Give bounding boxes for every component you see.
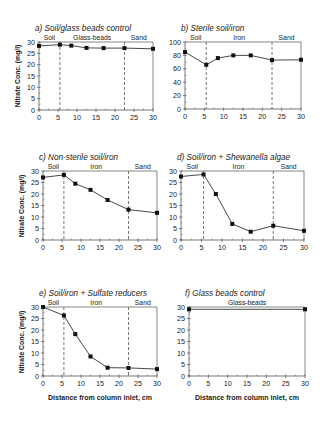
y-tick-label: 10 [31,349,39,358]
y-tick-label: 30 [27,38,35,47]
x-tick-label: 15 [239,243,247,252]
data-marker [214,192,218,196]
x-tick-label: 15 [243,379,251,388]
data-marker [102,46,106,50]
x-tick-label: 30 [300,243,308,252]
y-tick-label: 30 [177,303,185,312]
panel-title: c) Non-sterile soil/iron [39,153,119,162]
x-tick-label: 20 [115,379,123,388]
panel-b: b) Sterile soil/ironSoilIronSand02040608… [169,24,305,121]
x-tick-label: 10 [77,379,85,388]
data-marker [230,222,234,226]
x-tick-label: 5 [60,379,64,388]
y-tick-label: 25 [31,178,39,187]
y-tick-label: 20 [173,91,181,100]
x-tick-label: 25 [134,379,142,388]
data-marker [106,366,110,370]
x-tick-label: 15 [92,113,100,122]
data-line [43,307,157,369]
x-tick-label: 30 [153,243,161,252]
y-tick-label: 15 [27,72,35,81]
y-tick-label: 30 [31,167,39,176]
region-label: Sand [135,163,151,170]
x-tick-label: 15 [96,379,104,388]
x-tick-label: 5 [60,243,64,252]
data-marker [249,230,253,234]
y-tick-label: 25 [31,314,39,323]
region-label: Sand [135,299,151,306]
x-tick-label: 10 [224,379,232,388]
y-tick-label: 20 [31,326,39,335]
data-marker [270,58,274,62]
data-marker [85,46,89,50]
y-tick-label: 10 [177,349,185,358]
region-label: Sand [281,163,297,170]
x-tick-label: 0 [179,243,183,252]
x-tick-label: 0 [41,379,45,388]
data-marker [179,175,183,179]
panel-title: b) Sterile soil/iron [181,24,245,33]
panel-d: d) Soil/iron + Shewanella algaeSoilIronS… [169,153,308,252]
y-tick-label: 0 [35,372,39,381]
data-marker [106,198,110,202]
x-tick-label: 10 [73,113,81,122]
y-tick-label: 5 [35,224,39,233]
panel-title: a) Soil/glass beads control [35,24,131,33]
data-marker [127,366,131,370]
data-marker [73,332,77,336]
data-marker [73,182,77,186]
y-axis-label-top: Nitrate Conc. (mg/l) [14,45,22,108]
y-tick-label: 20 [169,190,177,199]
region-label: Iron [90,299,102,306]
region-label: Sand [131,34,147,41]
data-line [181,174,304,231]
region-label: Iron [90,163,102,170]
x-tick-label: 30 [301,379,309,388]
data-marker [249,53,253,57]
y-tick-label: 5 [35,360,39,369]
data-marker [302,229,306,233]
panel-f: f) Glass beads controlGlass-beads0510152… [177,289,309,388]
y-tick-label: 10 [27,83,35,92]
data-marker [216,56,220,60]
y-tick-label: 25 [177,314,185,323]
y-tick-label: 20 [31,190,39,199]
y-axis-label-middle: Nitrate Conc. (mg/l) [18,175,26,238]
region-label: Iron [233,163,245,170]
y-tick-label: 5 [31,94,35,103]
x-tick-label: 10 [220,112,228,121]
x-tick-label: 15 [96,243,104,252]
x-tick-label: 30 [153,379,161,388]
x-tick-label: 30 [297,112,305,121]
x-tick-label: 5 [200,243,204,252]
region-label: Soil [190,34,202,41]
data-marker [271,224,275,228]
data-marker [299,58,303,62]
data-line [185,52,301,65]
panel-e: e) Soil/iron + Sulfate reducersSoilIronS… [31,289,161,388]
y-tick-label: 0 [31,106,35,115]
y-tick-label: 0 [177,105,181,114]
nitrate-figure: a) Soil/glass beads controlSoilGlass-bea… [0,0,324,421]
data-marker [41,175,45,179]
data-marker [202,172,206,176]
data-marker [231,53,235,57]
data-marker [183,50,187,54]
x-tick-label: 5 [202,112,206,121]
x-tick-label: 20 [111,113,119,122]
data-marker [155,367,159,371]
y-tick-label: 10 [169,213,177,222]
y-tick-label: 15 [31,337,39,346]
x-tick-label: 0 [187,379,191,388]
y-tick-label: 30 [31,303,39,312]
panel-c: c) Non-sterile soil/ironSoilIronSand0510… [31,153,161,252]
data-marker [123,46,127,50]
x-tick-label: 10 [218,243,226,252]
y-tick-label: 25 [27,49,35,58]
y-tick-label: 25 [169,178,177,187]
data-marker [155,211,159,215]
y-tick-label: 5 [173,224,177,233]
data-line [39,45,153,49]
data-marker [127,208,131,212]
x-tick-label: 25 [282,379,290,388]
